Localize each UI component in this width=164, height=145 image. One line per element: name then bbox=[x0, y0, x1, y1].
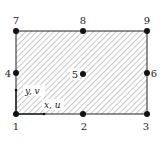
node-9-dot bbox=[144, 28, 150, 34]
node-8-label: 8 bbox=[80, 15, 86, 26]
node-7-dot bbox=[13, 28, 19, 34]
node-9-label: 9 bbox=[144, 15, 150, 26]
node-6-label: 6 bbox=[151, 68, 157, 79]
node-8-dot bbox=[80, 28, 86, 34]
y-axis-label: y, v bbox=[24, 86, 40, 96]
nine-node-element-diagram: 123456789 y, v x, u bbox=[0, 0, 164, 145]
node-1-label: 1 bbox=[13, 121, 19, 132]
y-arrowhead-icon bbox=[15, 89, 18, 92]
node-7-label: 7 bbox=[13, 15, 19, 26]
node-2-label: 2 bbox=[81, 121, 87, 132]
node-2-dot bbox=[80, 111, 86, 117]
node-5-dot bbox=[80, 71, 86, 77]
node-4-dot bbox=[13, 70, 19, 76]
node-4-label: 4 bbox=[5, 68, 11, 79]
node-3-label: 3 bbox=[143, 121, 149, 132]
x-axis-label: x, u bbox=[44, 100, 61, 110]
x-arrowhead-icon bbox=[43, 113, 46, 116]
node-1-dot bbox=[13, 111, 19, 117]
node-5-label: 5 bbox=[72, 69, 78, 80]
node-3-dot bbox=[144, 111, 150, 117]
node-6-dot bbox=[144, 70, 150, 76]
